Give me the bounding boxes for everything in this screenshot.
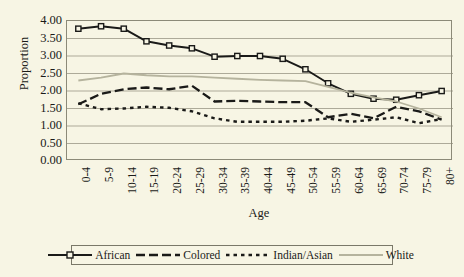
x-tick-label: 70-74	[399, 167, 411, 194]
x-tick-label: 10-14	[127, 167, 139, 194]
x-tick-label: 80+	[445, 167, 457, 185]
plot-area	[66, 20, 452, 160]
x-tick-label: 5-9	[104, 167, 116, 182]
legend-item-indian-asian[interactable]: Indian/Asian	[224, 249, 336, 261]
data-point-marker	[121, 26, 126, 31]
legend-label: White	[386, 249, 417, 261]
data-point-marker	[98, 24, 103, 29]
legend-item-colored[interactable]: Colored	[134, 249, 224, 261]
x-tick-label: 55-59	[331, 167, 343, 194]
data-point-marker	[167, 43, 172, 48]
legend-label: Indian/Asian	[273, 249, 335, 261]
legend-label: African	[95, 249, 133, 261]
data-point-marker	[326, 81, 331, 86]
x-tick-label: 45-49	[286, 167, 298, 194]
series-line-white	[78, 74, 441, 118]
y-tick-label: 3.00	[22, 49, 62, 62]
x-axis-tick-labels: 0-45-910-1415-1920-2425-2930-3435-3940-4…	[66, 161, 452, 211]
x-tick-label: 0-4	[81, 167, 93, 182]
data-point-marker	[144, 39, 149, 44]
x-tick-label: 15-19	[149, 167, 161, 194]
data-point-marker	[303, 67, 308, 72]
series-line-indian-asian	[78, 103, 441, 123]
x-tick-label: 75-79	[422, 167, 434, 194]
data-point-marker	[416, 93, 421, 98]
data-point-marker	[235, 53, 240, 58]
plot-canvas	[67, 21, 453, 161]
x-tick-label: 50-54	[308, 167, 320, 194]
legend-swatch-icon	[225, 249, 271, 261]
y-tick-label: 1.00	[22, 119, 62, 132]
line-chart: Proportion 4.003.503.002.502.001.501.000…	[0, 0, 464, 277]
y-tick-label: 3.50	[22, 32, 62, 45]
x-tick-label: 60-64	[354, 167, 366, 194]
legend-swatch-icon	[47, 249, 93, 261]
legend-item-white[interactable]: White	[337, 249, 418, 261]
y-tick-label: 4.00	[22, 14, 62, 27]
data-point-marker	[76, 26, 81, 31]
y-tick-label: 2.50	[22, 67, 62, 80]
x-tick-label: 40-44	[263, 167, 275, 194]
legend-label: Colored	[183, 249, 223, 261]
chart-legend: AfricanColoredIndian/AsianWhite	[71, 245, 393, 265]
data-point-marker	[280, 56, 285, 61]
y-axis-tick-labels: 4.003.503.002.502.001.501.000.500.00	[22, 0, 62, 277]
x-tick-label: 35-39	[240, 167, 252, 194]
x-tick-label: 65-69	[377, 167, 389, 194]
legend-item-african[interactable]: African	[46, 249, 134, 261]
data-point-marker	[212, 54, 217, 59]
y-tick-label: 2.00	[22, 84, 62, 97]
data-point-marker	[439, 88, 444, 93]
legend-swatch-icon	[338, 249, 384, 261]
data-point-marker	[257, 53, 262, 58]
x-axis-title: Age	[66, 206, 452, 221]
x-tick-label: 20-24	[172, 167, 184, 194]
y-tick-label: 0.50	[22, 137, 62, 150]
data-point-marker	[189, 46, 194, 51]
y-tick-label: 0.00	[22, 154, 62, 167]
y-tick-label: 1.50	[22, 102, 62, 115]
legend-swatch-icon	[135, 249, 181, 261]
x-tick-label: 25-29	[195, 167, 207, 194]
x-tick-label: 30-34	[218, 167, 230, 194]
